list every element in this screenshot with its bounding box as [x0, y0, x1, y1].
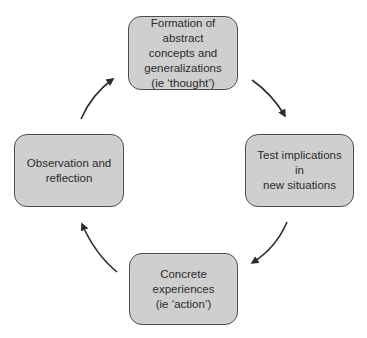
node-label: Observation and reflection	[27, 156, 111, 186]
node-abstract-conceptualization: Formation of abstract concepts and gener…	[128, 16, 238, 90]
learning-cycle-diagram: Formation of abstract concepts and gener…	[0, 0, 367, 338]
node-label: Concrete experiences (ie ‘action’)	[136, 267, 231, 312]
node-label: Test implications in new situations	[252, 148, 347, 193]
node-active-experimentation: Test implications in new situations	[245, 134, 354, 207]
node-concrete-experience: Concrete experiences (ie ‘action’)	[129, 253, 238, 325]
arrow-bottom-to-left	[82, 224, 117, 272]
arrow-left-to-top	[81, 79, 113, 119]
node-reflective-observation: Observation and reflection	[14, 134, 124, 207]
arrow-top-to-right	[252, 80, 285, 116]
arrow-right-to-bottom	[252, 222, 287, 263]
node-label: Formation of abstract concepts and gener…	[135, 16, 231, 91]
